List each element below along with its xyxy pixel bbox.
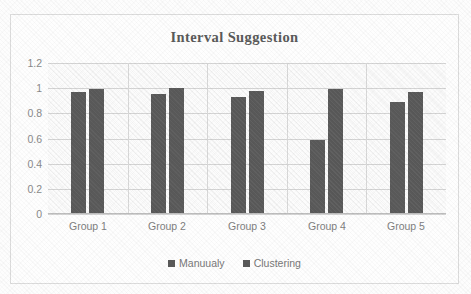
gridline-horizontal [48,164,446,165]
legend-label: Manuualy [179,258,225,269]
chart-title: Interval Suggestion [10,29,459,46]
gridline-vertical [128,63,129,214]
legend-entry-manuualy[interactable]: Manuualy [168,258,225,269]
gridline-horizontal [48,113,446,114]
bar-manuualy-group-2 [151,94,166,213]
legend-square-marker-icon [243,260,250,267]
gridline-horizontal [48,139,446,140]
y-axis-tick-label: 0.4 [8,159,42,169]
gridline-horizontal [48,88,446,89]
x-axis-category-label: Group 2 [127,220,207,233]
legend-entry-clustering[interactable]: Clustering [243,258,301,269]
x-axis-category-label: Group 3 [207,220,287,233]
y-axis-tick-label: 0.6 [8,134,42,144]
x-axis-category-label: Group 4 [287,220,367,233]
bar-clustering-group-4 [328,89,343,213]
bar-clustering-group-1 [89,89,104,213]
bar-clustering-group-3 [249,91,264,213]
y-axis-tick-label: 1.2 [8,58,42,68]
y-axis-tick-label: 0.8 [8,108,42,118]
legend-label: Clustering [254,258,301,269]
gridline-horizontal [48,214,446,215]
y-axis-tick-label: 0.2 [8,184,42,194]
y-axis-tick-labels: 00.20.40.60.811.2 [8,63,42,214]
x-axis-line [48,213,446,214]
gridline-vertical [207,63,208,214]
x-axis-category-label: Group 1 [48,220,128,233]
x-axis-category-label: Group 5 [366,220,446,233]
bar-manuualy-group-4 [310,140,325,213]
bar-manuualy-group-1 [71,92,86,213]
bar-clustering-group-5 [408,92,423,213]
gridline-vertical [287,63,288,214]
plot-area [48,63,446,214]
gridline-vertical [366,63,367,214]
bar-manuualy-group-3 [231,97,246,213]
y-axis-tick-label: 0 [8,209,42,219]
gridline-horizontal [48,63,446,64]
bar-clustering-group-2 [169,88,184,213]
bar-manuualy-group-5 [390,102,405,213]
chart-figure: Interval Suggestion 00.20.40.60.811.2 Gr… [0,0,471,294]
x-axis-category-labels: Group 1Group 2Group 3Group 4Group 5 [48,220,446,238]
y-axis-tick-label: 1 [8,83,42,93]
chart-legend: ManuualyClustering [10,258,459,269]
legend-square-marker-icon [168,260,175,267]
gridline-horizontal [48,189,446,190]
